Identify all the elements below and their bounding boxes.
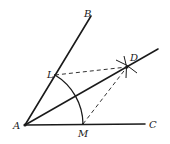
ray-AC bbox=[25, 124, 145, 125]
dashed-MD bbox=[83, 67, 127, 124]
label-M: M bbox=[77, 128, 89, 139]
point-A bbox=[23, 123, 26, 126]
point-L bbox=[54, 74, 56, 76]
label-D: D bbox=[129, 52, 138, 63]
bisector-AD bbox=[25, 49, 158, 125]
label-B: B bbox=[83, 8, 91, 19]
angle-bisector-diagram: A B C D L M bbox=[0, 0, 170, 144]
label-L: L bbox=[46, 69, 54, 80]
label-A: A bbox=[12, 120, 20, 131]
point-D bbox=[125, 65, 128, 68]
label-C: C bbox=[149, 119, 157, 130]
point-M bbox=[82, 123, 84, 125]
